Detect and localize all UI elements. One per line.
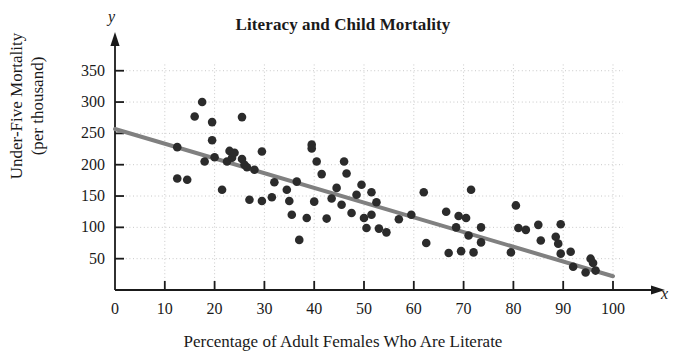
data-point (292, 177, 301, 186)
x-axis-variable-label: x (661, 285, 668, 303)
data-point (556, 220, 565, 229)
data-point (462, 214, 471, 223)
data-point (332, 184, 341, 193)
data-point (317, 170, 326, 179)
data-point (173, 174, 182, 183)
y-tick-label: 50 (59, 250, 105, 268)
chart-title: Literacy and Child Mortality (0, 16, 686, 33)
data-point (230, 148, 239, 157)
x-tick-label: 60 (394, 300, 434, 318)
data-point (464, 231, 473, 240)
data-point (243, 163, 252, 172)
data-points (173, 98, 600, 277)
data-point (287, 211, 296, 220)
data-point (210, 153, 219, 162)
data-point (357, 180, 366, 189)
data-point (310, 197, 319, 206)
data-point (382, 228, 391, 237)
y-tick-label: 250 (59, 124, 105, 142)
x-tick-label: 20 (195, 300, 235, 318)
data-point (419, 188, 428, 197)
data-point (340, 157, 349, 166)
data-point (581, 268, 590, 277)
x-tick-label: 70 (444, 300, 484, 318)
data-point (218, 185, 227, 194)
y-axis-variable-label: y (108, 8, 115, 26)
x-tick-label: 10 (145, 300, 185, 318)
data-point (514, 224, 523, 233)
data-point (208, 118, 217, 127)
data-point (198, 98, 207, 107)
data-point (295, 236, 304, 245)
data-point (407, 211, 416, 220)
data-point (372, 198, 381, 207)
x-tick-label: 100 (593, 300, 633, 318)
data-point (270, 178, 279, 187)
data-point (477, 223, 486, 232)
data-point (268, 193, 277, 202)
data-point (469, 248, 478, 257)
data-point (337, 200, 346, 209)
y-axis-title: Under-Five Mortality (per thousand) (6, 0, 62, 226)
data-point (452, 223, 461, 232)
data-point (258, 197, 267, 206)
data-point (342, 169, 351, 178)
y-tick-label: 350 (59, 62, 105, 80)
x-tick-label: 50 (344, 300, 384, 318)
data-point (360, 214, 369, 223)
data-point (507, 248, 516, 257)
data-point (312, 157, 321, 166)
data-point (307, 144, 316, 153)
data-point (522, 226, 531, 235)
data-point (556, 249, 565, 258)
x-tick-label: 90 (543, 300, 583, 318)
data-point (395, 215, 404, 224)
data-point (534, 221, 543, 230)
data-point (283, 185, 292, 194)
chart-figure: Literacy and Child Mortality y x Percent… (0, 0, 686, 362)
y-tick-label: 150 (59, 187, 105, 205)
data-point (442, 207, 451, 216)
data-point (258, 147, 267, 156)
data-point (245, 195, 254, 204)
data-point (208, 136, 217, 145)
x-tick-label: 0 (95, 300, 135, 318)
data-point (477, 238, 486, 247)
y-axis-title-line-2: (per thousand) (27, 0, 48, 226)
data-point (352, 190, 361, 199)
data-point (347, 209, 356, 218)
data-point (591, 266, 600, 275)
data-point (375, 224, 384, 233)
data-point (554, 239, 563, 248)
data-point (367, 188, 376, 197)
data-point (467, 185, 476, 194)
data-point (457, 247, 466, 256)
data-point (183, 175, 192, 184)
x-axis-title: Percentage of Adult Females Who Are Lite… (0, 333, 686, 350)
data-point (362, 224, 371, 233)
x-tick-label: 30 (244, 300, 284, 318)
data-point (454, 212, 463, 221)
data-point (536, 236, 545, 245)
y-tick-label: 200 (59, 156, 105, 174)
data-point (238, 113, 247, 122)
y-axis-title-line-1: Under-Five Mortality (6, 0, 27, 226)
data-point (190, 112, 199, 121)
y-tick-label: 100 (59, 218, 105, 236)
data-point (422, 239, 431, 248)
data-point (512, 201, 521, 210)
data-point (444, 249, 453, 258)
data-point (250, 165, 259, 174)
data-point (327, 194, 336, 203)
x-tick-label: 80 (493, 300, 533, 318)
data-point (173, 143, 182, 152)
data-point (589, 259, 598, 268)
x-tick-label: 40 (294, 300, 334, 318)
data-point (569, 263, 578, 272)
data-point (302, 214, 311, 223)
data-point (367, 211, 376, 220)
axes (110, 32, 665, 295)
data-point (285, 197, 294, 206)
y-tick-label: 300 (59, 93, 105, 111)
data-point (566, 247, 575, 256)
